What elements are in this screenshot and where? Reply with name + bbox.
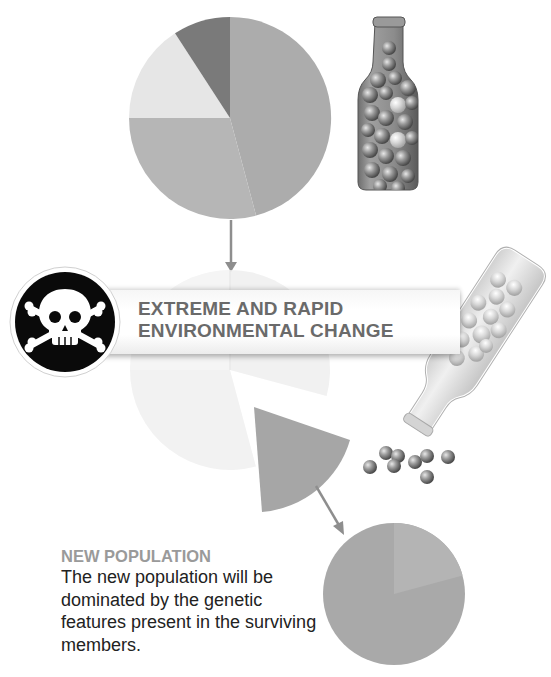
original-population-pie <box>129 17 331 219</box>
arrow-down-icon <box>225 220 237 272</box>
caption-body: The new population will be dominated by … <box>61 566 321 656</box>
bottle-full-icon <box>358 17 419 195</box>
arrow-diagonal-icon <box>316 486 344 535</box>
spilled-marbles-icon <box>363 446 455 484</box>
surviving-wedge <box>254 407 350 512</box>
caption-title: NEW POPULATION <box>61 546 321 566</box>
banner-line-2: ENVIRONMENTAL CHANGE <box>138 320 394 342</box>
skull-and-crossbones-icon <box>8 265 124 381</box>
banner-line-1: EXTREME AND RAPID <box>138 298 394 320</box>
banner-text: EXTREME AND RAPID ENVIRONMENTAL CHANGE <box>138 298 394 342</box>
new-population-pie <box>323 523 465 665</box>
new-population-caption: NEW POPULATION The new population will b… <box>61 546 321 656</box>
